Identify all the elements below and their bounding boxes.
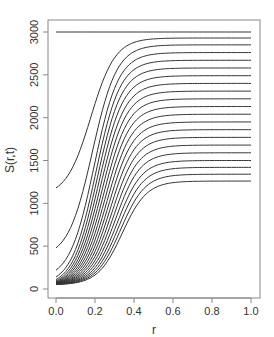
- chart: 0.00.20.40.60.81.0 050010001500200025003…: [0, 0, 274, 337]
- series-line: [56, 145, 251, 284]
- series-line: [56, 181, 251, 284]
- series-line: [56, 60, 251, 277]
- x-tick-label: 0.4: [126, 305, 141, 317]
- x-tick-label: 1.0: [243, 305, 258, 317]
- x-tick-label: 0.8: [204, 305, 219, 317]
- x-tick-label: 0.2: [87, 305, 102, 317]
- y-tick-label: 500: [28, 237, 40, 255]
- series-line: [56, 122, 251, 283]
- x-tick-label: 0.6: [165, 305, 180, 317]
- y-axis: 050010001500200025003000: [28, 20, 48, 292]
- y-tick-label: 1000: [28, 191, 40, 215]
- series-line: [56, 167, 251, 284]
- y-tick-label: 0: [28, 286, 40, 292]
- x-axis-label: r: [152, 323, 156, 337]
- curves: [56, 32, 251, 285]
- x-axis: 0.00.20.40.60.81.0: [48, 298, 258, 317]
- y-tick-label: 2500: [28, 63, 40, 87]
- x-tick-label: 0.0: [48, 305, 63, 317]
- series-line: [56, 53, 251, 271]
- y-tick-label: 2000: [28, 105, 40, 129]
- y-tick-label: 3000: [28, 20, 40, 44]
- y-tick-label: 1500: [28, 148, 40, 172]
- y-axis-label: S(r,t): [3, 147, 17, 173]
- series-line: [56, 107, 251, 283]
